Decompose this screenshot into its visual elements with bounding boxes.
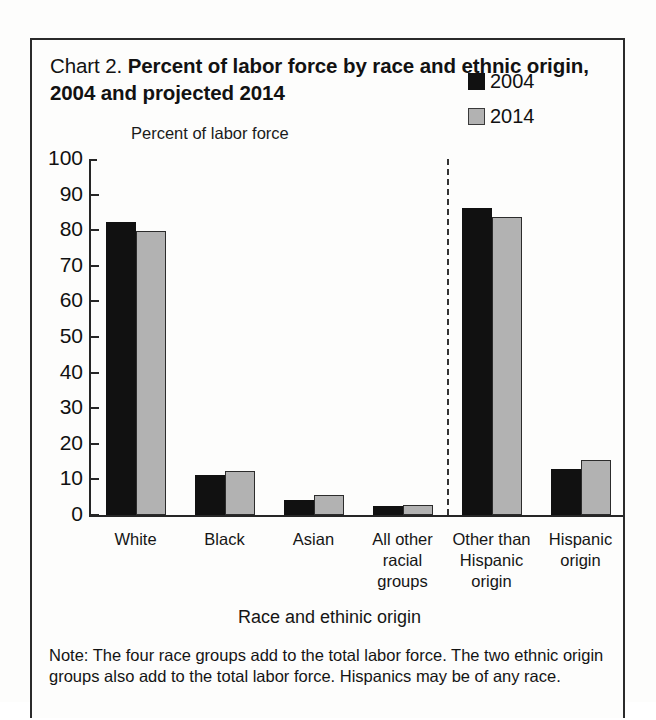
x-axis-title: Race and ethinic origin: [32, 607, 627, 628]
y-tick-label-10: 10: [60, 466, 83, 490]
bar-2004-hispanic-origin: [551, 469, 581, 515]
y-tick-label-40: 40: [60, 359, 83, 383]
x-category-label-line: origin: [432, 571, 552, 592]
x-category-label-line: origin: [521, 550, 641, 571]
legend-item-2014: 2014: [468, 105, 535, 128]
y-tick-20: 20: [91, 443, 99, 445]
plot-area: 0102030405060708090100: [89, 159, 629, 515]
bar-2004-all-other-racial-groups: [373, 506, 403, 515]
bar-2014-all-other-racial-groups: [403, 505, 433, 515]
y-tick-label-50: 50: [60, 324, 83, 348]
plot-wrapper: Percent of labor force 2004 2014 0102030…: [32, 40, 627, 720]
y-tick-label-100: 100: [48, 146, 83, 170]
figure-box: Chart 2. Percent of labor force by race …: [30, 38, 625, 718]
y-tick-label-80: 80: [60, 217, 83, 241]
y-tick-60: 60: [91, 300, 99, 302]
y-tick-label-30: 30: [60, 395, 83, 419]
y-tick-label-0: 0: [71, 502, 83, 526]
legend-swatch-2014-icon: [468, 108, 485, 125]
x-category-label-hispanic-origin: Hispanicorigin: [521, 529, 641, 571]
y-tick-30: 30: [91, 407, 99, 409]
bar-2014-white: [136, 231, 166, 515]
legend-label-2004: 2004: [490, 70, 535, 93]
bar-2014-black: [225, 471, 255, 515]
legend-label-2014: 2014: [490, 105, 535, 128]
y-tick-50: 50: [91, 336, 99, 338]
y-tick-0: 0: [91, 514, 99, 516]
legend: 2004 2014: [468, 70, 535, 140]
race-ethnicity-divider: [447, 159, 449, 515]
y-tick-70: 70: [91, 265, 99, 267]
bar-2004-white: [106, 222, 136, 515]
y-axis-title: Percent of labor force: [131, 124, 289, 143]
bar-2014-asian: [314, 495, 344, 515]
bar-2004-other-than-hispanic-origin: [462, 208, 492, 515]
y-tick-80: 80: [91, 229, 99, 231]
y-tick-label-20: 20: [60, 430, 83, 454]
y-axis-top-cap: [89, 159, 97, 161]
y-tick-40: 40: [91, 372, 99, 374]
figure-note: Note: The four race groups add to the to…: [49, 645, 611, 686]
y-tick-label-70: 70: [60, 252, 83, 276]
x-axis-line: [89, 515, 623, 517]
bar-2004-asian: [284, 500, 314, 515]
bar-2014-hispanic-origin: [581, 460, 611, 515]
y-tick-90: 90: [91, 194, 99, 196]
y-tick-label-60: 60: [60, 288, 83, 312]
bar-2014-other-than-hispanic-origin: [492, 217, 522, 515]
y-tick-label-90: 90: [60, 181, 83, 205]
legend-swatch-2004-icon: [468, 73, 485, 90]
x-category-label-line: Hispanic: [521, 529, 641, 550]
legend-item-2004: 2004: [468, 70, 535, 93]
y-tick-10: 10: [91, 478, 99, 480]
bar-2004-black: [195, 475, 225, 515]
